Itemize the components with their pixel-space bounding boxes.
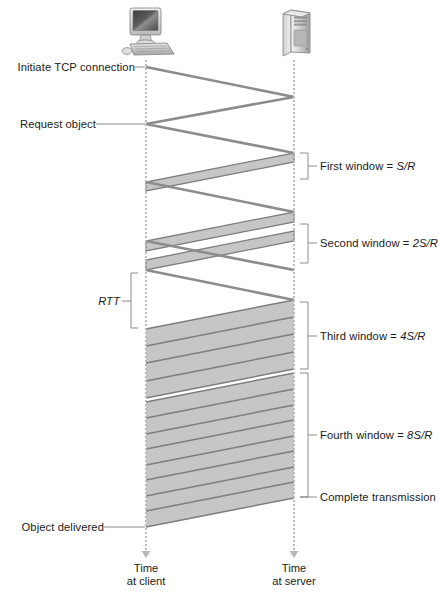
label-third-window-prefix: Third window = xyxy=(320,330,400,342)
label-first-window-value: S/R xyxy=(396,160,415,172)
label-third-window-value: 4S/R xyxy=(400,330,425,342)
label-fourth-window: Fourth window = 8S/R xyxy=(320,429,432,441)
transmission-bands xyxy=(146,153,294,527)
window-brackets xyxy=(300,153,317,497)
label-fourth-window-prefix: Fourth window = xyxy=(320,429,407,441)
figure-canvas: Initiate TCP connection Request object O… xyxy=(0,0,439,595)
label-second-window-value: 2S/R xyxy=(413,237,438,249)
label-first-window: First window = S/R xyxy=(320,160,415,172)
label-first-window-prefix: First window = xyxy=(320,160,396,172)
axis-caption-server-line1: Time xyxy=(244,562,344,575)
label-complete-transmission-text: Complete transmission xyxy=(320,491,436,503)
label-initiate-tcp-connection-text: Initiate TCP connection xyxy=(17,61,135,73)
label-rtt-text: RTT xyxy=(98,295,120,307)
axis-caption-server-line2: at server xyxy=(244,575,344,588)
label-object-delivered: Object delivered xyxy=(0,521,104,533)
label-initiate-tcp-connection: Initiate TCP connection xyxy=(0,61,135,73)
label-rtt: RTT xyxy=(60,295,120,307)
label-request-object-text: Request object xyxy=(20,118,96,130)
axis-caption-client-line1: Time xyxy=(96,562,196,575)
label-third-window: Third window = 4S/R xyxy=(320,330,425,342)
rtt-bracket xyxy=(122,273,138,328)
label-complete-transmission: Complete transmission xyxy=(320,491,436,503)
label-object-delivered-text: Object delivered xyxy=(22,521,104,533)
label-request-object: Request object xyxy=(0,118,96,130)
label-fourth-window-value: 8S/R xyxy=(407,429,432,441)
axis-caption-client: Time at client xyxy=(96,562,196,588)
axis-caption-client-line2: at client xyxy=(96,575,196,588)
label-second-window: Second window = 2S/R xyxy=(320,237,438,249)
label-second-window-prefix: Second window = xyxy=(320,237,413,249)
axis-caption-server: Time at server xyxy=(244,562,344,588)
